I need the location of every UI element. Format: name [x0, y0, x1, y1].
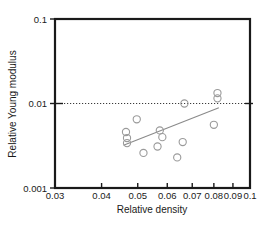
x-tick-label-6: 0.09 — [224, 190, 243, 201]
data-point — [210, 121, 217, 128]
x-tick-label-2: 0.05 — [128, 190, 147, 201]
data-point — [133, 116, 140, 123]
scatter-points — [122, 89, 221, 161]
data-point — [179, 138, 186, 145]
data-point — [214, 95, 221, 102]
y-tick-label-2: 0.1 — [34, 14, 47, 25]
data-point — [159, 134, 166, 141]
x-axis-title: Relative density — [117, 204, 188, 215]
data-point — [174, 154, 181, 161]
x-tick-label-0: 0.03 — [46, 190, 65, 201]
x-axis-tick-labels: 0.03 0.04 0.05 0.06 0.07 0.08 0.09 0.1 — [46, 190, 257, 201]
y-tick-label-0: 0.001 — [23, 183, 47, 194]
y-axis-tick-labels: 0.1 0.01 0.001 — [23, 14, 47, 194]
data-point — [154, 143, 161, 150]
y-axis-title: Relative Young modulus — [7, 50, 18, 157]
y-tick-label-1: 0.01 — [29, 98, 48, 109]
x-tick-label-3: 0.06 — [158, 190, 177, 201]
data-point — [140, 149, 147, 156]
trend-line — [124, 108, 219, 146]
chart-container: 0.03 0.04 0.05 0.06 0.07 0.08 0.09 0.1 0… — [0, 0, 274, 228]
x-tick-label-1: 0.04 — [92, 190, 111, 201]
y-axis-ticks — [50, 19, 63, 188]
x-tick-label-7: 0.1 — [243, 190, 256, 201]
x-tick-label-4: 0.07 — [183, 190, 202, 201]
scatter-plot-svg: 0.03 0.04 0.05 0.06 0.07 0.08 0.09 0.1 0… — [0, 0, 274, 228]
x-tick-label-5: 0.08 — [205, 190, 224, 201]
